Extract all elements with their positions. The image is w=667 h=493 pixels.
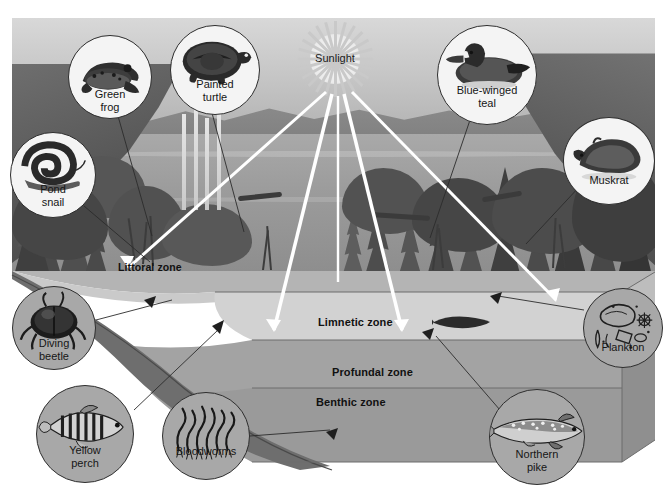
callout-muskrat[interactable]: Muskrat bbox=[563, 117, 655, 205]
muskrat-icon bbox=[564, 118, 654, 204]
callout-label: Northern pike bbox=[490, 448, 584, 473]
callout-northern-pike[interactable]: Northern pike bbox=[489, 389, 585, 485]
callout-label: Plankton bbox=[584, 341, 662, 354]
zone-label-littoral: Littoral zone bbox=[118, 261, 182, 273]
callout-label: Muskrat bbox=[564, 174, 654, 187]
callout-label: Blue-winged teal bbox=[438, 84, 536, 109]
callout-label: Bloodworms bbox=[163, 445, 249, 458]
duck-icon bbox=[438, 26, 536, 124]
callout-yellow-perch[interactable]: Yellow perch bbox=[36, 385, 134, 483]
sunlight-label: Sunlight bbox=[296, 52, 374, 64]
limnetic-fish-icon bbox=[432, 312, 492, 332]
callout-label: Green frog bbox=[69, 88, 151, 113]
callout-painted-turtle[interactable]: Painted turtle bbox=[170, 25, 260, 115]
callout-plankton[interactable]: Plankton bbox=[583, 288, 663, 368]
diagram-canvas: Sunlight bbox=[0, 0, 667, 493]
callout-diving-beetle[interactable]: Diving beetle bbox=[12, 286, 96, 370]
callout-label: Pond snail bbox=[11, 183, 95, 208]
callout-label: Yellow perch bbox=[37, 444, 133, 469]
callout-pond-snail[interactable]: Pond snail bbox=[10, 132, 96, 218]
callout-blue-winged-teal[interactable]: Blue-winged teal bbox=[437, 25, 537, 125]
limnetic-band bbox=[214, 292, 622, 340]
callout-label: Painted turtle bbox=[171, 78, 259, 103]
callout-green-frog[interactable]: Green frog bbox=[68, 35, 152, 119]
callout-bloodworms[interactable]: Bloodworms bbox=[162, 392, 250, 480]
zone-label-profundal: Profundal zone bbox=[332, 366, 413, 378]
plankton-icon bbox=[584, 289, 662, 367]
zone-label-benthic: Benthic zone bbox=[316, 396, 386, 408]
bloodworm-icon bbox=[163, 393, 249, 479]
zone-label-limnetic: Limnetic zone bbox=[318, 316, 393, 328]
callout-label: Diving beetle bbox=[13, 337, 95, 362]
